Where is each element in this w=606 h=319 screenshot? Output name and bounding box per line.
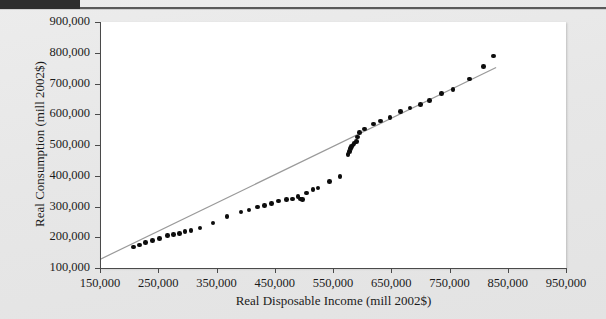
data-point	[284, 197, 289, 202]
y-axis-line	[100, 22, 101, 269]
data-point	[165, 233, 170, 238]
y-axis-title: Real Consumption (mill 2002$)	[32, 24, 48, 264]
scatter-chart: 100,000200,000300,000400,000500,000600,0…	[0, 10, 606, 319]
x-axis-tick	[508, 268, 509, 273]
x-axis-tick	[333, 268, 334, 273]
data-point	[269, 201, 274, 206]
data-point	[467, 77, 472, 82]
plot-svg	[100, 22, 566, 268]
x-axis-tick	[566, 268, 567, 273]
data-point	[150, 238, 155, 243]
data-point	[290, 197, 295, 202]
data-point	[255, 205, 260, 210]
x-axis-tick	[100, 268, 101, 273]
data-point	[225, 214, 230, 219]
data-point	[304, 191, 309, 196]
y-axis-tick	[95, 237, 100, 238]
top-dark-bar	[0, 0, 80, 9]
data-point	[491, 54, 496, 59]
data-point	[300, 197, 305, 202]
data-point	[338, 174, 343, 179]
data-point	[327, 179, 332, 184]
data-point	[418, 102, 423, 107]
y-axis-tick	[95, 176, 100, 177]
data-point	[276, 199, 281, 204]
data-point	[355, 135, 360, 140]
x-axis-title: Real Disposable Income (mill 2002$)	[100, 293, 567, 309]
data-point	[439, 91, 444, 96]
data-point	[171, 232, 176, 237]
y-axis-tick	[95, 84, 100, 85]
data-point	[177, 231, 182, 236]
data-point	[157, 236, 162, 241]
data-point	[398, 109, 403, 114]
data-point	[143, 240, 148, 245]
data-point	[427, 98, 432, 103]
data-point	[137, 243, 142, 248]
data-point	[262, 203, 267, 208]
x-axis-tick	[275, 268, 276, 273]
y-axis-tick	[95, 114, 100, 115]
data-point	[362, 127, 367, 132]
y-axis-tick	[95, 145, 100, 146]
x-axis-tick	[158, 268, 159, 273]
y-axis-tick	[95, 22, 100, 23]
y-axis-tick	[95, 207, 100, 208]
x-axis-tick	[450, 268, 451, 273]
x-axis-tick	[217, 268, 218, 273]
data-point	[481, 64, 486, 69]
x-axis-tick-label: 950,000	[526, 276, 606, 290]
trendline	[100, 68, 496, 260]
data-point	[388, 115, 393, 120]
plot-area	[100, 22, 566, 268]
x-axis-tick	[391, 268, 392, 273]
y-axis-tick	[95, 53, 100, 54]
data-point	[354, 139, 359, 144]
